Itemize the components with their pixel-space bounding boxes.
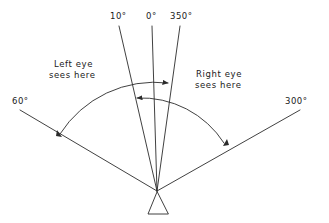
diagram-canvas: 10° 0° 350° 60° 300° Left eye sees here … [0, 0, 329, 223]
ray-label-0-degrees: 0° [146, 11, 157, 22]
ray-label-350-degrees: 350° [170, 11, 192, 22]
ray-label-60-degrees: 60° [12, 96, 29, 107]
left-outer-ray-60 [20, 110, 157, 191]
right-eye-field-arc [60, 82, 168, 134]
ray-label-10-degrees: 10° [110, 11, 127, 22]
right-eye-annotation-line1: Right eye [196, 69, 242, 80]
viewer-triangle-icon [148, 192, 168, 214]
left-arc-arrowhead [56, 130, 62, 137]
right-eye-annotation-line2: sees here [195, 80, 242, 91]
left-eye-annotation-line2: sees here [49, 70, 96, 81]
inner-left-ray-10 [119, 26, 157, 191]
left-eye-annotation-line1: Left eye [54, 59, 93, 70]
left-eye-field-arc [137, 98, 224, 143]
ray-label-300-degrees: 300° [285, 96, 307, 107]
inner-right-ray-350 [157, 26, 180, 191]
center-ray-0 [152, 26, 157, 191]
diagram-vector-layer [0, 0, 329, 223]
right-outer-ray-300 [157, 110, 300, 191]
